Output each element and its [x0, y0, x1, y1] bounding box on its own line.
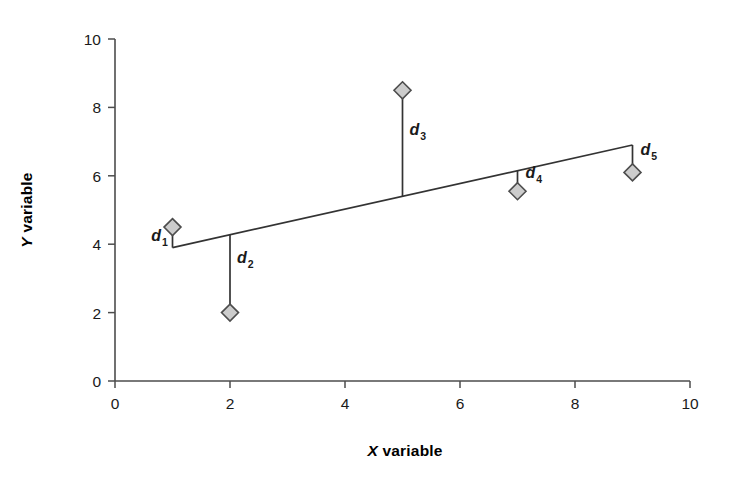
x-tick-label: 10	[681, 395, 699, 412]
x-tick-label: 8	[571, 395, 580, 412]
y-axis-title: Y variable	[18, 172, 35, 247]
y-tick-label: 2	[92, 305, 101, 322]
x-tick-label: 2	[226, 395, 235, 412]
plot-canvas: 0246810 0246810 d1d2d3d4d5 X variable Y …	[0, 0, 739, 478]
y-tick-label: 10	[84, 31, 102, 48]
x-tick-label: 6	[456, 395, 465, 412]
scatter-plot-figure: 0246810 0246810 d1d2d3d4d5 X variable Y …	[0, 0, 739, 478]
x-tick-label: 0	[111, 395, 120, 412]
y-tick-label: 8	[92, 99, 101, 116]
y-tick-label: 4	[92, 236, 101, 253]
x-tick-label: 4	[341, 395, 350, 412]
y-tick-label: 0	[92, 373, 101, 390]
x-axis-title: X variable	[366, 442, 442, 459]
y-tick-label: 6	[92, 168, 101, 185]
